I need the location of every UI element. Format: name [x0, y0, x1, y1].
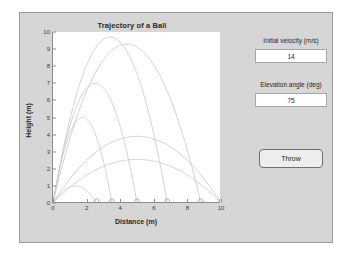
plot-area: 0123456789100246810: [52, 32, 220, 203]
x-axis-tickmark: [120, 199, 121, 202]
elevation-angle-input[interactable]: 75: [255, 93, 327, 107]
trajectory-curve-throw-1: [53, 186, 97, 202]
x-axis-tick-6: 6: [152, 205, 155, 211]
initial-velocity-label: Initial velocity (m/s): [248, 37, 334, 44]
trajectory-figure: Trajectory of a Ball Height (m) 01234567…: [20, 13, 248, 244]
y-axis-tickmark: [53, 134, 56, 135]
y-axis-tickmark: [53, 83, 56, 84]
y-axis-tick-4: 4: [47, 132, 50, 138]
trajectory-curve-throw-7: [53, 159, 220, 202]
x-axis-tickmark: [53, 199, 54, 202]
y-axis-tickmark: [53, 66, 56, 67]
x-axis-tick-0: 0: [51, 205, 54, 211]
y-axis-tick-8: 8: [47, 63, 50, 69]
y-axis-tickmark: [53, 49, 56, 50]
trajectory-curves: [53, 32, 220, 202]
y-axis-tickmark: [53, 203, 56, 204]
y-axis-tick-2: 2: [47, 166, 50, 172]
y-axis-tickmark: [53, 100, 56, 101]
x-axis-tickmark: [87, 199, 88, 202]
y-axis-tick-9: 9: [47, 46, 50, 52]
x-axis-tickmark: [187, 199, 188, 202]
x-axis-label: Distance (m): [52, 218, 220, 225]
page-title: Trajectory of a Ball: [42, 21, 222, 30]
y-axis-tickmark: [53, 117, 56, 118]
y-axis-tickmark: [53, 32, 56, 33]
y-axis-tickmark: [53, 185, 56, 186]
x-axis-tick-8: 8: [186, 205, 189, 211]
y-axis-tick-0: 0: [47, 200, 50, 206]
y-axis-tick-10: 10: [43, 29, 50, 35]
y-axis-label: Height (m): [25, 91, 32, 151]
x-axis-tick-10: 10: [218, 205, 225, 211]
y-axis-tick-3: 3: [47, 149, 50, 155]
trajectory-curve-throw-6: [53, 136, 220, 202]
application-window: Trajectory of a Ball Height (m) 01234567…: [19, 12, 333, 243]
x-axis-tickmark: [154, 199, 155, 202]
y-axis-tick-6: 6: [47, 97, 50, 103]
y-axis-tick-1: 1: [47, 183, 50, 189]
trajectory-curve-throw-5: [53, 44, 201, 202]
plot-inner: [53, 32, 220, 202]
y-axis-tickmark: [53, 168, 56, 169]
x-axis-tick-4: 4: [119, 205, 122, 211]
x-axis-tick-2: 2: [85, 205, 88, 211]
x-axis-tickmark: [221, 199, 222, 202]
y-axis-tickmark: [53, 151, 56, 152]
throw-button[interactable]: Throw: [259, 149, 323, 168]
trajectory-curve-throw-4: [53, 37, 167, 202]
elevation-angle-label: Elevation angle (deg): [248, 81, 334, 88]
initial-velocity-input[interactable]: 14: [255, 49, 327, 63]
y-axis-tick-5: 5: [47, 115, 50, 121]
y-axis-tick-7: 7: [47, 80, 50, 86]
controls-panel: Initial velocity (m/s) 14 Elevation angl…: [248, 13, 334, 244]
